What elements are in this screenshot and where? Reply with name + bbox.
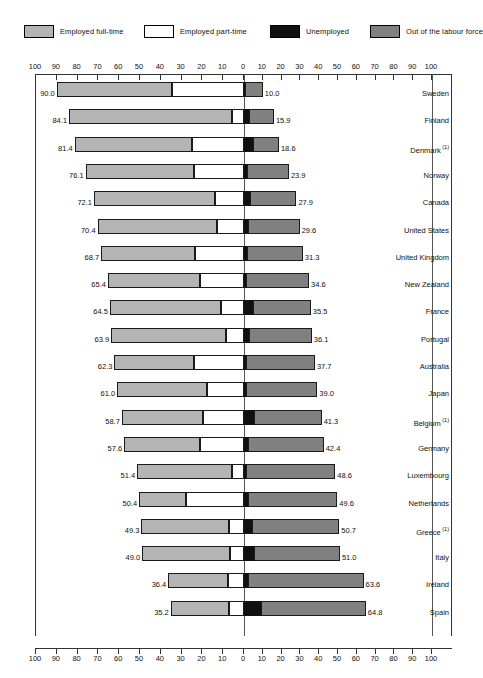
- row-country-footnote: (1): [441, 417, 449, 423]
- axis-tick-label: 90: [408, 654, 416, 663]
- bar-row: 35.264.8Spain: [36, 601, 453, 628]
- bar-segment-out-of-labour-force: [252, 519, 339, 534]
- axis-tick-label: 70: [370, 62, 378, 71]
- bar-segment-full-time: [122, 410, 204, 425]
- row-left-value: 81.4: [58, 144, 74, 153]
- bar-segment-full-time: [139, 492, 186, 507]
- bar-row: 51.448.6Luxembourg: [36, 464, 453, 491]
- row-country-label: Australia: [420, 362, 449, 371]
- axis-tick-label: 70: [93, 654, 101, 663]
- bar-segment-full-time: [57, 82, 172, 97]
- row-country-label: Canada: [423, 198, 449, 207]
- row-right-value: 63.6: [364, 580, 381, 589]
- row-left-value: 49.0: [125, 553, 141, 562]
- bar-segment-full-time: [86, 164, 194, 179]
- plot-area: 90.010.0Sweden84.115.9Finland81.418.6Den…: [35, 74, 452, 636]
- row-right-value: 23.9: [289, 171, 306, 180]
- bar-row: 72.127.9Canada: [36, 191, 453, 218]
- bar-segment-out-of-labour-force: [261, 601, 366, 616]
- bar-row: 49.350.7Greece (1): [36, 519, 453, 546]
- bar-segment-part-time: [200, 437, 244, 452]
- row-country-footnote: (1): [441, 144, 449, 150]
- axis-tick-label: 30: [295, 62, 303, 71]
- row-country-label: United States: [404, 226, 449, 235]
- row-left-value: 72.1: [77, 198, 93, 207]
- chart-legend: Employed full-time Employed part-time Un…: [0, 20, 482, 42]
- axis-bottom: 1009080706050403020100102030405060708090…: [35, 636, 452, 650]
- bar-row: 81.418.6Denmark (1): [36, 137, 453, 164]
- axis-tick-label: 80: [389, 654, 397, 663]
- axis-tick-label: 30: [176, 62, 184, 71]
- row-right-value: 27.9: [296, 198, 313, 207]
- bar-segment-part-time: [221, 300, 244, 315]
- legend-label-full-time: Employed full-time: [60, 27, 124, 36]
- axis-tick-label: 60: [352, 654, 360, 663]
- row-right-value: 64.8: [366, 608, 383, 617]
- axis-tick-label: 90: [52, 62, 60, 71]
- bar-segment-out-of-labour-force: [254, 410, 322, 425]
- axis-tick-label: 30: [176, 654, 184, 663]
- axis-tick-label: 80: [72, 654, 80, 663]
- bar-row: 49.051.0Italy: [36, 546, 453, 573]
- bar-segment-full-time: [168, 573, 227, 588]
- bar-segment-part-time: [200, 273, 244, 288]
- bar-row: 90.010.0Sweden: [36, 82, 453, 109]
- axis-tick-label: 20: [276, 654, 284, 663]
- bar-segment-part-time: [207, 382, 244, 397]
- axis-tick-label: 20: [197, 62, 205, 71]
- axis-tick-label: 10: [218, 654, 226, 663]
- row-country-label: Luxembourg: [407, 471, 449, 480]
- row-country-label: Italy: [435, 553, 449, 562]
- bar-segment-part-time: [217, 219, 244, 234]
- bar-segment-unemployed: [244, 300, 253, 315]
- bar-segment-part-time: [203, 410, 244, 425]
- axis-tick-label: 60: [114, 62, 122, 71]
- row-left-value: 90.0: [40, 89, 56, 98]
- axis-tick-label: 80: [72, 62, 80, 71]
- axis-tick-label: 10: [258, 62, 266, 71]
- bar-segment-full-time: [114, 355, 193, 370]
- bar-segment-out-of-labour-force: [254, 546, 340, 561]
- bar-row: 63.936.1Portugal: [36, 328, 453, 355]
- row-left-value: 58.7: [105, 417, 121, 426]
- axis-tick-label: 40: [156, 654, 164, 663]
- row-right-value: 36.1: [312, 335, 329, 344]
- row-right-value: 15.9: [274, 116, 291, 125]
- bar-segment-part-time: [230, 546, 244, 561]
- row-country-label: Finland: [424, 116, 449, 125]
- bar-segment-out-of-labour-force: [247, 246, 303, 261]
- axis-tick-label: 30: [295, 654, 303, 663]
- row-right-value: 34.6: [309, 280, 326, 289]
- bar-segment-out-of-labour-force: [253, 300, 310, 315]
- legend-item-unemployed: Unemployed: [270, 20, 349, 42]
- row-left-value: 61.0: [101, 389, 117, 398]
- row-right-value: 49.6: [337, 499, 354, 508]
- axis-tick-label: 90: [408, 62, 416, 71]
- row-right-value: 50.7: [339, 526, 356, 535]
- bar-segment-out-of-labour-force: [246, 382, 318, 397]
- row-country-label: Belgium (1): [414, 417, 449, 428]
- row-country-label: Spain: [430, 608, 449, 617]
- bar-row: 70.429.6United States: [36, 219, 453, 246]
- bar-row: 65.434.6New Zealand: [36, 273, 453, 300]
- axis-tick-label: 60: [114, 654, 122, 663]
- bar-segment-part-time: [215, 191, 244, 206]
- bar-segment-part-time: [192, 137, 244, 152]
- bar-segment-full-time: [137, 464, 231, 479]
- bar-segment-out-of-labour-force: [253, 137, 279, 152]
- row-right-value: 10.0: [263, 89, 280, 98]
- axis-tick-label: 40: [156, 62, 164, 71]
- bar-segment-full-time: [69, 109, 232, 124]
- bar-segment-full-time: [75, 137, 192, 152]
- row-right-value: 18.6: [279, 144, 296, 153]
- row-left-value: 64.5: [93, 307, 109, 316]
- row-right-value: 37.7: [315, 362, 332, 371]
- bar-segment-part-time: [186, 492, 244, 507]
- axis-tick-label: 100: [425, 62, 438, 71]
- bar-segment-full-time: [101, 246, 195, 261]
- row-left-value: 36.4: [152, 580, 168, 589]
- row-country-label: Norway: [424, 171, 449, 180]
- row-left-value: 68.7: [84, 253, 100, 262]
- axis-tick-label: 50: [333, 62, 341, 71]
